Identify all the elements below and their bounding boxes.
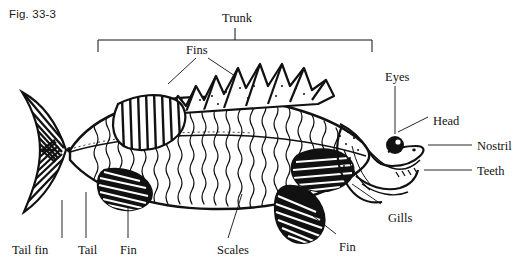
fish-anatomy-figure: Fig. 33-3 [0,0,526,273]
label-fins: Fins [186,43,208,58]
pectoral-fin [292,149,354,191]
caudal-tail-fin [22,92,71,212]
label-tail: Tail [78,243,97,258]
label-teeth: Teeth [477,164,505,179]
label-fin-anal: Fin [120,243,137,258]
fins-leader-lines [168,58,238,84]
label-nostril: Nostril [477,139,512,154]
label-eyes: Eyes [385,70,409,85]
label-trunk: Trunk [222,11,252,26]
label-gills: Gills [388,211,412,226]
fish-diagram-svg [0,0,526,273]
head-leader-line [398,117,428,132]
trunk-bracket [98,28,372,52]
dorsal-fin [168,64,334,114]
label-head: Head [433,114,459,129]
label-scales: Scales [217,243,249,258]
nostril [412,149,416,152]
label-fin-pectoral: Fin [339,240,356,255]
label-tail-fin: Tail fin [12,243,48,258]
eye [386,136,404,154]
